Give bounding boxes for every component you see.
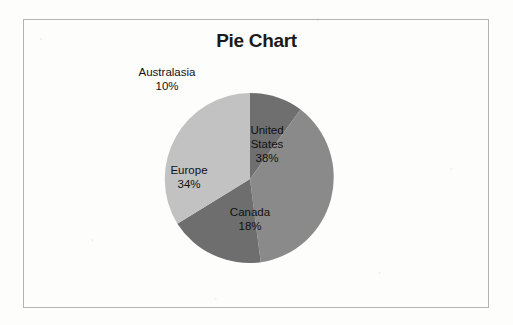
chart-page: Pie Chart United States 38% Canada 18% E… [0, 0, 513, 325]
pie-label-canada-name: Canada [230, 206, 270, 218]
pie-label-united-states: United States 38% [236, 123, 298, 165]
pie-label-canada: Canada 18% [218, 205, 282, 233]
pie-label-europe: Europe 34% [160, 163, 218, 191]
pie-label-australasia-name: Australasia [139, 66, 196, 78]
pie-label-united-states-name-line2: States [251, 138, 284, 150]
pie-label-australasia: Australasia 10% [125, 65, 209, 93]
page-title: Pie Chart [0, 30, 513, 52]
pie-label-europe-percent: 34% [160, 177, 218, 191]
pie-label-australasia-percent: 10% [125, 79, 209, 93]
pie-label-canada-percent: 18% [218, 219, 282, 233]
pie-label-united-states-name-line1: United [250, 124, 283, 136]
pie-label-united-states-percent: 38% [236, 151, 298, 165]
pie-label-europe-name: Europe [170, 164, 207, 176]
